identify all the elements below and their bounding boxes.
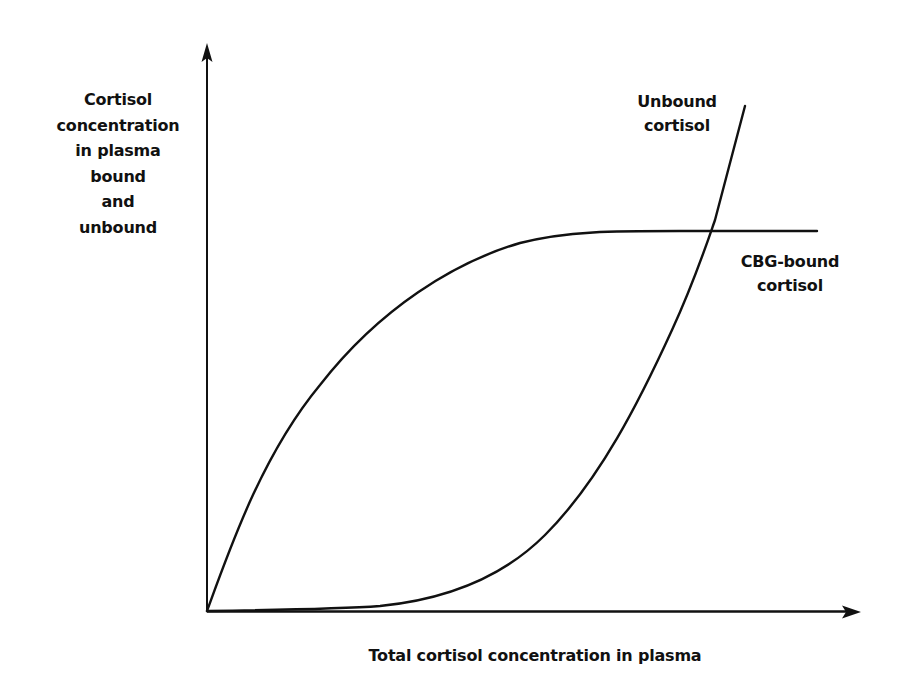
y-axis-label-line: bound: [38, 164, 198, 190]
bound-label-line: cortisol: [720, 274, 860, 298]
cbg-bound-cortisol-label: CBG-bound cortisol: [720, 250, 860, 298]
y-axis-label: Cortisol concentration in plasma bound a…: [38, 87, 198, 240]
y-axis-label-line: and: [38, 189, 198, 215]
y-axis-label-line: concentration: [38, 113, 198, 139]
y-axis-label-line: unbound: [38, 215, 198, 241]
x-axis-label: Total cortisol concentration in plasma: [300, 644, 770, 668]
unbound-label-line: Unbound: [610, 90, 744, 114]
unbound-curve: [207, 106, 745, 611]
cortisol-binding-diagram: Cortisol concentration in plasma bound a…: [0, 0, 907, 690]
unbound-cortisol-label: Unbound cortisol: [610, 90, 744, 138]
y-axis-label-line: Cortisol: [38, 87, 198, 113]
bound-label-line: CBG-bound: [720, 250, 860, 274]
unbound-label-line: cortisol: [610, 114, 744, 138]
y-axis-label-line: in plasma: [38, 138, 198, 164]
